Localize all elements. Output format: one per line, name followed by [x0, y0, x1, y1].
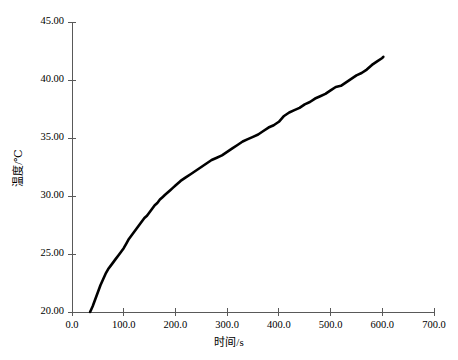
- x-tick-label: 600.0: [357, 319, 407, 330]
- x-tick-label: 0.0: [47, 319, 97, 330]
- y-tick-label: 40.00: [18, 73, 64, 84]
- y-tick-label: 25.00: [18, 247, 64, 258]
- temperature-time-chart: 20.0025.0030.0035.0040.0045.00 0.0100.02…: [0, 0, 458, 360]
- data-line-temperature: [90, 57, 383, 312]
- y-axis-title: 温度/℃: [9, 133, 25, 203]
- chart-canvas: [0, 0, 458, 360]
- x-tick-label: 400.0: [254, 319, 304, 330]
- x-tick-label: 500.0: [306, 319, 356, 330]
- x-tick-label: 300.0: [202, 319, 252, 330]
- x-tick-label: 200.0: [150, 319, 200, 330]
- x-axis-title: 时间/s: [0, 333, 458, 349]
- x-tick-label: 700.0: [409, 319, 458, 330]
- y-tick-label: 20.00: [18, 305, 64, 316]
- x-tick-label: 100.0: [99, 319, 149, 330]
- y-tick-label: 45.00: [18, 15, 64, 26]
- axis-lines: [72, 22, 434, 312]
- data-series-group: [90, 57, 383, 312]
- axis-ticks: [68, 22, 434, 316]
